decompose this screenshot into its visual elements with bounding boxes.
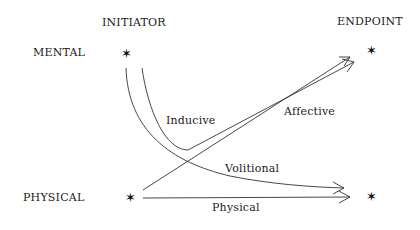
physical-arrow (143, 197, 350, 198)
physical-label: Physical (212, 201, 260, 214)
affective-label: Affective (284, 105, 335, 118)
inducive-label: Inducive (166, 114, 216, 127)
volitional-label: Volitional (225, 162, 279, 175)
